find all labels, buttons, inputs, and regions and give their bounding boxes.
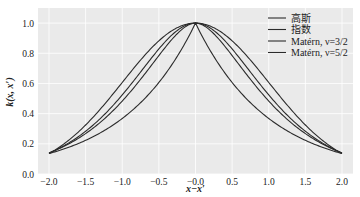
y-tick-label: 0.0 <box>22 170 34 180</box>
legend-label: 指数 <box>291 23 311 35</box>
legend-label: Matérn, ν=3/2 <box>291 36 348 47</box>
y-tick-label: 0.6 <box>22 79 34 89</box>
x-tick-label: 1.0 <box>263 177 275 187</box>
legend-label: Matérn, ν=5/2 <box>291 47 348 58</box>
legend-label: 高斯 <box>291 12 311 24</box>
x-tick-label: −2.0 <box>40 177 57 187</box>
x-tick-label: −0.5 <box>150 177 167 187</box>
y-tick-label: 1.0 <box>22 19 34 29</box>
kernel-chart: −2.0−1.5−1.0−0.5−0.00.51.01.52.0 0.00.20… <box>0 0 360 197</box>
x-tick-label: −1.0 <box>114 177 131 187</box>
x-tick-label: 2.0 <box>336 177 348 187</box>
y-tick-label: 0.2 <box>22 139 34 149</box>
x-tick-label: 0.5 <box>226 177 238 187</box>
x-tick-label: 1.5 <box>299 177 311 187</box>
y-tick-label: 0.4 <box>22 109 34 119</box>
x-tick-label: −1.5 <box>77 177 94 187</box>
y-axis-ticks: 0.00.20.40.60.81.0 <box>22 19 34 180</box>
y-axis-label: k(x, x′) <box>4 77 16 106</box>
x-axis-label: x−x′ <box>185 183 205 194</box>
y-tick-label: 0.8 <box>22 49 34 59</box>
